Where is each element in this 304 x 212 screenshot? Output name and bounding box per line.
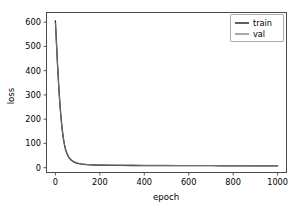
- x-tick-label: 400: [136, 177, 152, 187]
- legend-label-val: val: [253, 29, 265, 39]
- y-tick-label: 300: [25, 90, 41, 100]
- y-tick-label: 0: [36, 163, 41, 173]
- x-tick-label: 200: [92, 177, 108, 187]
- y-tick-label: 500: [25, 41, 41, 51]
- y-tick-label: 400: [25, 66, 41, 76]
- x-tick-label: 1000: [267, 177, 288, 187]
- x-tick-label: 800: [225, 177, 241, 187]
- x-axis-title: epoch: [153, 192, 179, 202]
- y-tick-label: 200: [25, 114, 41, 124]
- figure-canvas: 0100200300400500600 02004006008001000 lo…: [0, 0, 304, 212]
- x-tick-label: 600: [181, 177, 197, 187]
- y-tick-label: 100: [25, 138, 41, 148]
- y-axis-title: loss: [6, 87, 16, 104]
- legend: train val: [231, 15, 284, 42]
- line-chart: 0100200300400500600 02004006008001000 lo…: [0, 0, 304, 212]
- x-tick-label: 0: [53, 177, 58, 187]
- legend-label-train: train: [253, 18, 272, 28]
- y-tick-label: 600: [25, 17, 41, 27]
